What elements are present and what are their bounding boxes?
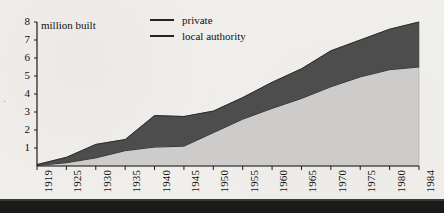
legend-label-local-authority: local authority bbox=[182, 30, 246, 42]
legend-label-private: private bbox=[182, 14, 213, 26]
y-tick-label-8: 8 bbox=[16, 16, 30, 27]
y-tick-label-1: 1 bbox=[16, 142, 30, 153]
legend-swatch-local-authority-icon bbox=[150, 35, 174, 37]
figure-housing-completions: · million built 12345678 191919251930193… bbox=[0, 0, 444, 213]
page-bottom-edge bbox=[0, 201, 444, 213]
y-axis-label: million built bbox=[41, 19, 96, 31]
y-tick-label-4: 4 bbox=[16, 88, 30, 99]
chart-legend: private local authority bbox=[150, 12, 246, 44]
legend-item-private: private bbox=[150, 12, 246, 28]
y-tick-label-3: 3 bbox=[16, 106, 30, 117]
y-tick-label-5: 5 bbox=[16, 70, 30, 81]
y-tick-label-2: 2 bbox=[16, 124, 30, 135]
y-tick-label-6: 6 bbox=[16, 52, 30, 63]
y-tick-label-7: 7 bbox=[16, 34, 30, 45]
legend-swatch-private-icon bbox=[150, 19, 174, 21]
legend-item-local-authority: local authority bbox=[150, 28, 246, 44]
